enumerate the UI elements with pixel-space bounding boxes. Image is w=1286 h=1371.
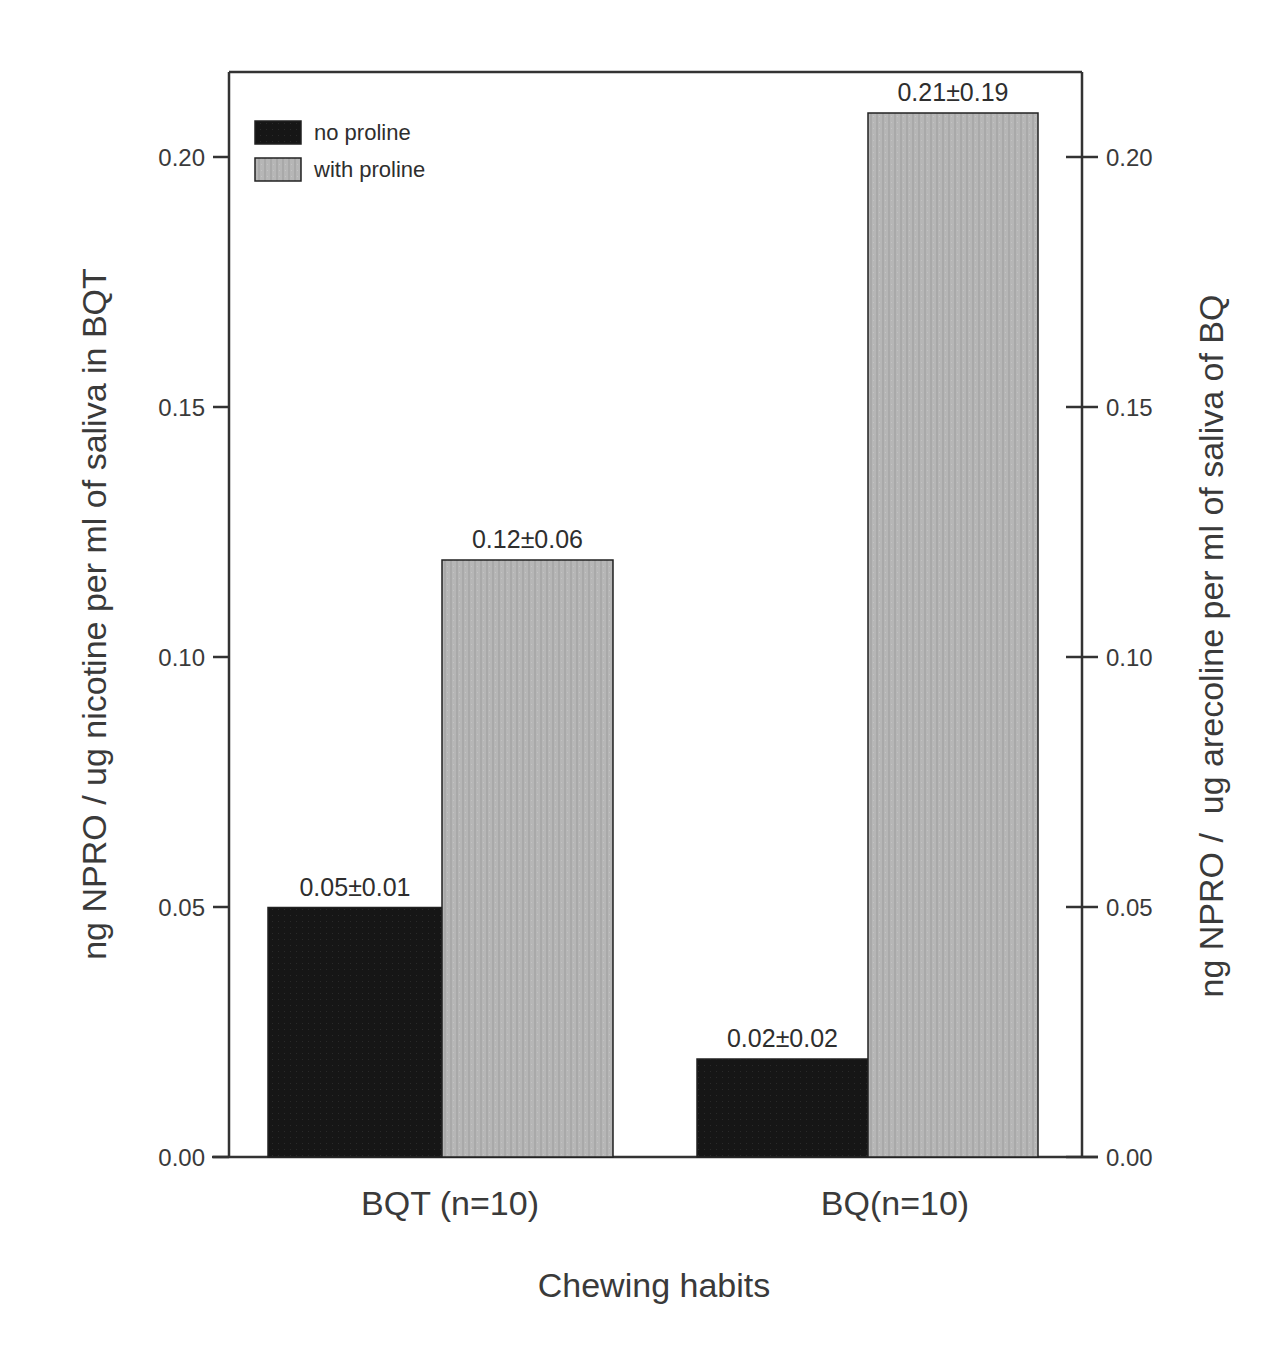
right-tick-label: 0.15 bbox=[1106, 394, 1153, 421]
bar-chart: 0.000.050.100.150.20 0.000.050.100.150.2… bbox=[0, 0, 1286, 1371]
bar-with-proline bbox=[868, 113, 1038, 1157]
left-tick-label: 0.20 bbox=[158, 144, 205, 171]
left-tick-label: 0.15 bbox=[158, 394, 205, 421]
left-tick-label: 0.05 bbox=[158, 894, 205, 921]
legend-label-with-proline: with proline bbox=[313, 157, 425, 182]
bar-value-label: 0.12±0.06 bbox=[472, 525, 583, 553]
left-tick-label: 0.00 bbox=[158, 1144, 205, 1171]
legend: no proline with proline bbox=[255, 120, 425, 182]
left-y-axis-title: ng NPRO / ug nicotine per ml of saliva i… bbox=[75, 268, 113, 960]
bar-no-proline bbox=[268, 908, 442, 1158]
category-label-bq: BQ(n=10) bbox=[821, 1184, 969, 1222]
x-axis-title: Chewing habits bbox=[538, 1266, 770, 1304]
right-y-axis-title: ng NPRO / ug arecoline per ml of saliva … bbox=[1192, 295, 1230, 998]
bar-with-proline bbox=[442, 560, 613, 1157]
right-tick-label: 0.20 bbox=[1106, 144, 1153, 171]
bar-no-proline bbox=[697, 1059, 868, 1157]
legend-label-no-proline: no proline bbox=[314, 120, 411, 145]
left-tick-label: 0.10 bbox=[158, 644, 205, 671]
bar-value-label: 0.02±0.02 bbox=[727, 1024, 838, 1052]
right-tick-label: 0.10 bbox=[1106, 644, 1153, 671]
right-tick-label: 0.00 bbox=[1106, 1144, 1153, 1171]
legend-swatch-no-proline bbox=[255, 121, 301, 144]
bars: 0.05±0.010.12±0.060.02±0.020.21±0.19 bbox=[268, 78, 1038, 1157]
bar-value-label: 0.05±0.01 bbox=[299, 873, 410, 901]
right-y-ticks: 0.000.050.100.150.20 bbox=[1066, 144, 1153, 1171]
left-y-ticks: 0.000.050.100.150.20 bbox=[158, 144, 229, 1171]
right-tick-label: 0.05 bbox=[1106, 894, 1153, 921]
bar-value-label: 0.21±0.19 bbox=[897, 78, 1008, 106]
category-label-bqt: BQT (n=10) bbox=[361, 1184, 539, 1222]
legend-swatch-with-proline bbox=[255, 158, 301, 181]
